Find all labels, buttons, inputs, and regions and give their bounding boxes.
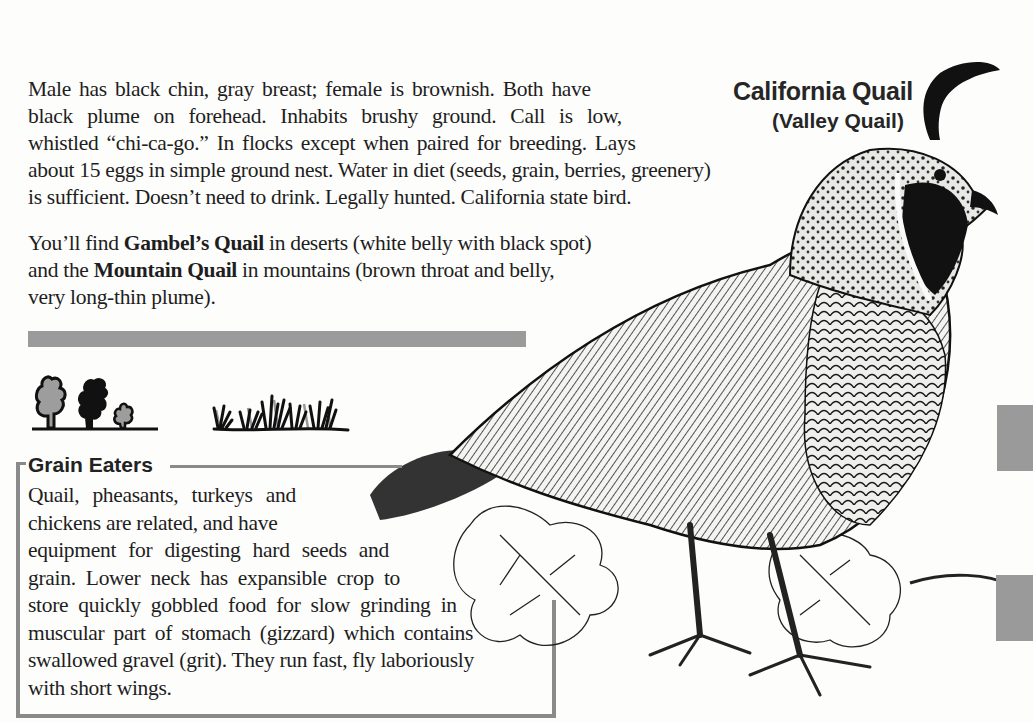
mountain-quail-term: Mountain Quail [94, 258, 237, 282]
quail-illustration [350, 55, 1033, 723]
grain-eaters-heading: Grain Eaters [28, 453, 155, 477]
text: You’ll find [28, 231, 124, 255]
box-border-top [170, 465, 402, 468]
box-border-left [16, 463, 20, 718]
trees-icon [30, 370, 160, 434]
gambels-quail-term: Gambel’s Quail [124, 231, 264, 255]
box-border-corner [16, 462, 26, 465]
page-edge-tab [996, 575, 1033, 641]
page-edge-tab [997, 405, 1033, 471]
text: and the [28, 258, 94, 282]
grass-icon [212, 388, 352, 434]
